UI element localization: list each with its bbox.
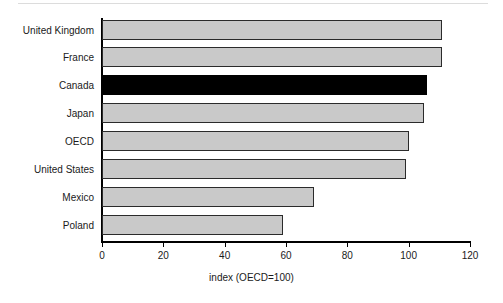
bar-france [102, 47, 442, 67]
x-tick-20 [163, 242, 164, 247]
category-label-japan: Japan [67, 108, 94, 119]
bar-united-kingdom [102, 20, 442, 40]
x-tick-40 [225, 242, 226, 247]
bar-chart: United Kingdom France Canada Japan OECD … [0, 0, 503, 303]
x-tick-60 [286, 242, 287, 247]
plot-area: United Kingdom France Canada Japan OECD … [0, 0, 503, 303]
x-tick-0 [102, 242, 103, 247]
bar-japan [102, 103, 424, 123]
x-axis-title: index (OECD=100) [0, 272, 503, 283]
x-tick-label-100: 100 [400, 250, 417, 261]
x-tick-100 [409, 242, 410, 247]
x-tick-80 [347, 242, 348, 247]
category-label-france: France [63, 52, 94, 63]
x-tick-label-0: 0 [99, 250, 105, 261]
bar-canada [102, 75, 427, 95]
bar-united-states [102, 159, 406, 179]
category-label-united-kingdom: United Kingdom [23, 25, 94, 36]
category-label-oecd: OECD [65, 136, 94, 147]
bar-poland [102, 215, 283, 235]
bar-mexico [102, 187, 314, 207]
category-label-poland: Poland [63, 220, 94, 231]
category-label-united-states: United States [34, 164, 94, 175]
x-tick-label-20: 20 [158, 250, 169, 261]
category-label-mexico: Mexico [62, 192, 94, 203]
x-tick-label-120: 120 [462, 250, 479, 261]
x-tick-120 [470, 242, 471, 247]
x-tick-label-40: 40 [219, 250, 230, 261]
category-label-canada: Canada [59, 80, 94, 91]
bar-oecd [102, 131, 409, 151]
x-tick-label-60: 60 [280, 250, 291, 261]
x-tick-label-80: 80 [342, 250, 353, 261]
